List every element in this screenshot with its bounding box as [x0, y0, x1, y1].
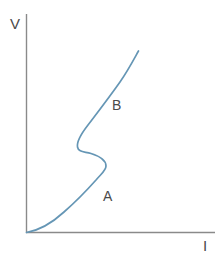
- iv-characteristic-figure: V I A B: [0, 0, 222, 256]
- iv-curve: [27, 51, 139, 233]
- y-axis-label: V: [10, 16, 20, 31]
- curve-point-label-a: A: [103, 189, 112, 203]
- plot-canvas: [0, 0, 222, 256]
- x-axis-label: I: [203, 238, 207, 253]
- curve-point-label-b: B: [112, 98, 121, 112]
